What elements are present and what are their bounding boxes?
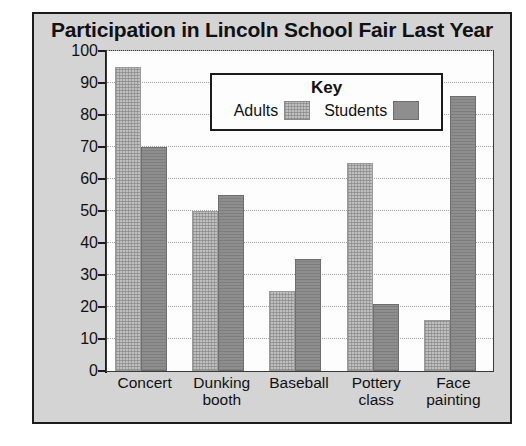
y-axis-tick-label: 30 [52, 266, 98, 284]
y-axis-tick-label: 50 [52, 202, 98, 220]
y-axis-tick-label: 90 [52, 74, 98, 92]
legend-label: Students [324, 102, 387, 120]
bar-group [107, 51, 184, 371]
bar-adults[interactable] [347, 163, 373, 371]
y-axis-tick-label: 10 [52, 330, 98, 348]
bar-adults[interactable] [115, 67, 141, 371]
x-axis-tick-label: Baseball [260, 374, 337, 391]
legend-label: Adults [234, 102, 278, 120]
legend-title: Key [212, 78, 441, 98]
x-axis-tick-label: Facepainting [415, 374, 492, 408]
y-axis-tick-label: 0 [52, 362, 98, 380]
bar-students[interactable] [218, 195, 244, 371]
bar-students[interactable] [450, 96, 476, 371]
legend-entry-adults[interactable]: Adults [234, 101, 310, 120]
legend-swatch [284, 101, 310, 120]
y-axis-tick-label: 70 [52, 138, 98, 156]
y-axis-tick-label: 80 [52, 106, 98, 124]
legend-items: AdultsStudents [212, 101, 441, 120]
x-axis-tick-label: Potteryclass [338, 374, 415, 408]
chart-title: Participation in Lincoln School Fair Las… [34, 18, 510, 42]
x-axis-labels: ConcertDunkingboothBaseballPotteryclassF… [106, 374, 494, 420]
y-axis-tick-label: 40 [52, 234, 98, 252]
x-axis-tick-label: Dunkingbooth [183, 374, 260, 408]
legend-entry-students[interactable]: Students [324, 101, 419, 120]
legend-swatch [393, 101, 419, 120]
bar-adults[interactable] [269, 291, 295, 371]
bar-adults[interactable] [424, 320, 450, 371]
x-axis-tick-label: Concert [106, 374, 183, 391]
chart-panel: Participation in Lincoln School Fair Las… [32, 12, 512, 424]
y-axis-tick-label: 20 [52, 298, 98, 316]
bar-adults[interactable] [192, 211, 218, 371]
y-axis-labels: 0102030405060708090100 [42, 50, 98, 372]
bar-students[interactable] [295, 259, 321, 371]
legend: Key AdultsStudents [210, 73, 443, 131]
y-axis-tick-label: 100 [52, 42, 98, 60]
y-axis-tick-label: 60 [52, 170, 98, 188]
bar-students[interactable] [141, 147, 167, 371]
bar-students[interactable] [373, 304, 399, 371]
